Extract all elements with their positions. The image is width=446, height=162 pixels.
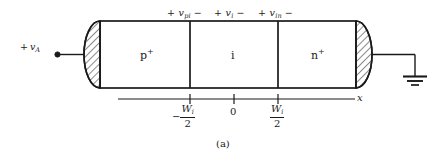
wi2-numerator-sub: i <box>281 108 283 116</box>
x-axis <box>118 94 355 104</box>
v-pi-symbol: v <box>175 7 184 18</box>
region-n-superscript: + <box>318 47 325 56</box>
right-terminal-lead <box>372 55 415 77</box>
axis-label-pos-half-wi: Wi 2 <box>270 104 284 129</box>
region-i-letter: i <box>231 49 235 62</box>
wi2-denominator: 2 <box>270 118 284 130</box>
va-plus-sign: + <box>20 41 28 52</box>
v-pi-minus: − <box>191 7 202 18</box>
wi-numerator-sub: i <box>192 108 194 116</box>
wi2-numerator: W <box>271 103 281 114</box>
v-in-minus: − <box>282 7 293 18</box>
region-label-n-plus: n+ <box>311 48 325 61</box>
pin-diode-figure: +vA +vpi− +vi− +vin− p+ i n+ − Wi 2 0 Wi… <box>0 0 446 162</box>
region-p-superscript: + <box>147 47 154 56</box>
left-terminal-lead <box>55 52 84 57</box>
v-pi-subscript: pi <box>184 12 190 20</box>
v-i-symbol: v <box>222 7 231 18</box>
ground-icon <box>403 77 427 86</box>
region-p-letter: p <box>140 49 147 62</box>
v-i-minus: − <box>233 7 244 18</box>
axis-label-neg-half-wi: − Wi 2 <box>172 104 195 129</box>
voltage-label-v-in: +vin− <box>258 8 293 20</box>
figure-caption: (a) <box>216 139 230 149</box>
v-in-symbol: v <box>266 7 275 18</box>
voltage-label-v-pi: +vpi− <box>167 8 202 20</box>
neg-sign: − <box>172 111 180 122</box>
v-in-subscript: in <box>275 12 281 20</box>
applied-voltage-label: +vA <box>20 42 41 54</box>
region-label-p-plus: p+ <box>140 48 154 61</box>
terminal-node-dot <box>55 52 60 57</box>
wi-numerator: W <box>181 103 191 114</box>
wi-denominator: 2 <box>180 118 194 130</box>
axis-label-zero: 0 <box>230 107 236 117</box>
x-axis-name-label: x <box>357 93 363 103</box>
va-subscript: A <box>35 46 40 54</box>
region-label-intrinsic: i <box>231 48 235 61</box>
voltage-label-v-i: +vi− <box>214 8 245 20</box>
